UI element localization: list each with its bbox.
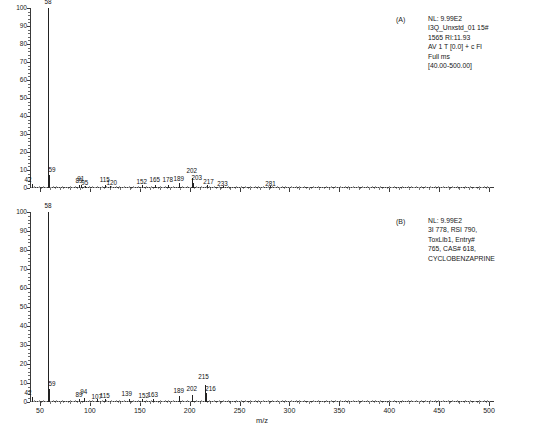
x-tick-label: 350 bbox=[333, 402, 345, 414]
x-minor-tick bbox=[329, 402, 330, 404]
y-minor-tick bbox=[28, 296, 30, 297]
x-minor-tick bbox=[409, 402, 410, 404]
spectrum-peak bbox=[110, 186, 111, 188]
x-minor-tick bbox=[70, 402, 71, 404]
x-minor-tick bbox=[299, 188, 300, 190]
spectrum-panel-a: (A) NL: 9.99E2 I3Q_Unxstd_01 15# 1565 RI… bbox=[0, 0, 539, 204]
x-minor-tick bbox=[220, 402, 221, 404]
peak-label: 178 bbox=[162, 177, 173, 183]
x-tick-mark bbox=[339, 188, 340, 192]
x-minor-tick bbox=[80, 188, 81, 190]
y-minor-tick bbox=[28, 353, 30, 354]
y-minor-tick bbox=[28, 242, 30, 243]
x-tick-mark bbox=[489, 188, 490, 192]
x-minor-tick bbox=[80, 402, 81, 404]
y-minor-tick bbox=[28, 246, 30, 247]
x-minor-tick bbox=[399, 188, 400, 190]
peak-label: 58 bbox=[44, 203, 51, 209]
spectrum-peak bbox=[79, 185, 80, 188]
peak-label: 189 bbox=[173, 388, 184, 394]
y-minor-tick bbox=[28, 141, 30, 142]
y-tick-mark bbox=[27, 98, 30, 99]
y-minor-tick bbox=[28, 273, 30, 274]
x-minor-tick bbox=[419, 188, 420, 190]
y-minor-tick bbox=[28, 87, 30, 88]
x-minor-tick bbox=[220, 188, 221, 190]
x-minor-tick bbox=[269, 402, 270, 404]
y-minor-tick bbox=[28, 280, 30, 281]
x-minor-tick bbox=[369, 188, 370, 190]
x-minor-tick bbox=[279, 188, 280, 190]
peak-label: 152 bbox=[136, 179, 147, 185]
y-minor-tick bbox=[28, 48, 30, 49]
y-minor-tick bbox=[28, 277, 30, 278]
y-minor-tick bbox=[28, 387, 30, 388]
y-tick-mark bbox=[27, 134, 30, 135]
y-tick-mark bbox=[27, 326, 30, 327]
spectrum-peak bbox=[193, 183, 194, 188]
x-minor-tick bbox=[160, 188, 161, 190]
y-minor-tick bbox=[28, 265, 30, 266]
y-minor-tick bbox=[28, 261, 30, 262]
x-minor-tick bbox=[230, 188, 231, 190]
x-minor-tick bbox=[329, 188, 330, 190]
plot-area-a: 0102030405060708090100425859899195115120… bbox=[30, 8, 494, 188]
y-minor-tick bbox=[28, 120, 30, 121]
x-minor-tick bbox=[359, 402, 360, 404]
y-minor-tick bbox=[28, 379, 30, 380]
x-minor-tick bbox=[160, 402, 161, 404]
x-tick-mark bbox=[439, 188, 440, 192]
y-minor-tick bbox=[28, 220, 30, 221]
y-tick-mark bbox=[27, 307, 30, 308]
x-tick-label: 200 bbox=[184, 402, 196, 414]
y-minor-tick bbox=[28, 349, 30, 350]
x-minor-tick bbox=[70, 188, 71, 190]
x-tick-mark bbox=[140, 188, 141, 192]
x-minor-tick bbox=[409, 188, 410, 190]
x-tick-mark bbox=[90, 188, 91, 192]
y-minor-tick bbox=[28, 356, 30, 357]
y-tick-mark bbox=[27, 26, 30, 27]
y-minor-tick bbox=[28, 341, 30, 342]
x-axis-title: m/z bbox=[30, 416, 494, 425]
x-minor-tick bbox=[449, 402, 450, 404]
y-minor-tick bbox=[28, 235, 30, 236]
spectrum-peak bbox=[79, 399, 80, 402]
x-minor-tick bbox=[260, 402, 261, 404]
peak-label: 233 bbox=[217, 181, 228, 187]
y-minor-tick bbox=[28, 258, 30, 259]
x-tick-mark bbox=[240, 188, 241, 192]
x-minor-tick bbox=[210, 188, 211, 190]
x-minor-tick bbox=[50, 188, 51, 190]
x-minor-tick bbox=[250, 402, 251, 404]
spectrum-peak bbox=[84, 398, 85, 402]
y-minor-tick bbox=[28, 55, 30, 56]
y-minor-tick bbox=[28, 19, 30, 20]
spectrum-peak bbox=[142, 399, 143, 402]
x-minor-tick bbox=[369, 402, 370, 404]
y-tick-mark bbox=[27, 8, 30, 9]
peak-label: 58 bbox=[44, 0, 51, 5]
spectrum-panel-b: (B) NL: 9.99E2 3I 778, RSI 790, ToxLib1,… bbox=[0, 204, 539, 441]
peak-label: 165 bbox=[149, 177, 160, 183]
y-minor-tick bbox=[28, 105, 30, 106]
y-minor-tick bbox=[28, 30, 30, 31]
y-minor-tick bbox=[28, 12, 30, 13]
y-tick-mark bbox=[27, 212, 30, 213]
x-minor-tick bbox=[309, 402, 310, 404]
y-minor-tick bbox=[28, 303, 30, 304]
x-minor-tick bbox=[349, 402, 350, 404]
x-tick-mark bbox=[40, 188, 41, 192]
peak-label: 215 bbox=[198, 374, 209, 380]
y-minor-tick bbox=[28, 216, 30, 217]
x-minor-tick bbox=[349, 188, 350, 190]
x-minor-tick bbox=[180, 402, 181, 404]
baseline-noise bbox=[489, 401, 490, 402]
x-minor-tick bbox=[100, 188, 101, 190]
y-minor-tick bbox=[28, 51, 30, 52]
x-minor-tick bbox=[250, 188, 251, 190]
y-tick-mark bbox=[27, 402, 30, 403]
y-tick-mark bbox=[27, 188, 30, 189]
x-minor-tick bbox=[379, 402, 380, 404]
x-minor-tick bbox=[459, 188, 460, 190]
